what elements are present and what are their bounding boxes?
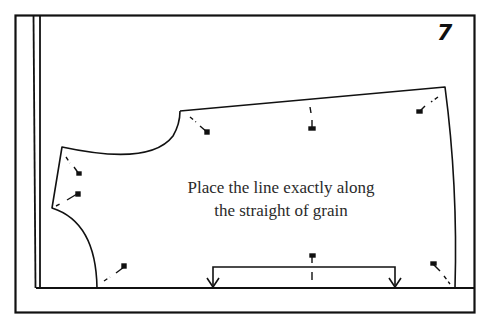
pin-icon bbox=[309, 107, 315, 130]
pin-icon bbox=[190, 117, 209, 134]
grainline-bracket bbox=[207, 267, 401, 287]
diagram-drawing bbox=[0, 0, 483, 320]
pin-icon bbox=[66, 157, 81, 175]
caption-line-2: the straight of grain bbox=[150, 199, 412, 222]
sewing-diagram: 7 Place the line exactly along the strai… bbox=[0, 0, 483, 320]
pin-icon bbox=[104, 264, 126, 281]
pin-icon bbox=[431, 262, 450, 284]
pin-icon bbox=[310, 254, 315, 263]
pin-icon bbox=[417, 97, 438, 113]
instruction-caption: Place the line exactly along the straigh… bbox=[150, 176, 412, 222]
step-number: 7 bbox=[437, 22, 452, 44]
selvage-line-outer bbox=[34, 15, 36, 288]
outer-frame bbox=[16, 16, 475, 313]
caption-line-1: Place the line exactly along bbox=[150, 176, 412, 199]
pin-icon bbox=[56, 192, 80, 206]
